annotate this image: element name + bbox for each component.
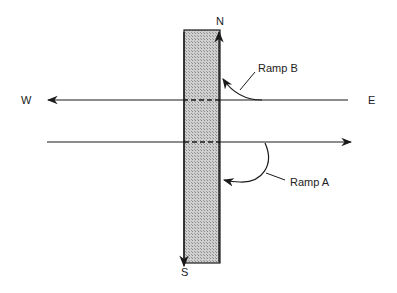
north-label: N: [216, 15, 224, 27]
ramp-a-leader: [266, 173, 285, 180]
interchange-diagram: Ramp B Ramp A N S W E: [0, 0, 397, 293]
ramp-b-curve: [223, 79, 262, 100]
ramp-a-curve: [224, 143, 268, 182]
south-label: S: [181, 266, 188, 278]
east-label: E: [368, 94, 375, 106]
north-south-road: [184, 30, 220, 263]
ramp-b-label: Ramp B: [258, 62, 298, 74]
ramp-a-label: Ramp A: [290, 176, 330, 188]
west-label: W: [21, 94, 32, 106]
ramp-b-leader: [240, 72, 255, 90]
